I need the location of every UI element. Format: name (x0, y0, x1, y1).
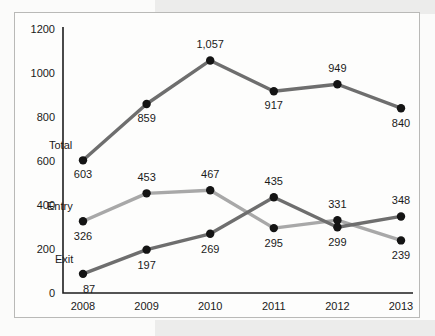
series-line-total (83, 60, 401, 160)
y-axis-tick-label: 600 (37, 155, 55, 167)
data-point-marker (206, 230, 214, 238)
data-point-marker (333, 80, 341, 88)
line-chart-plot: 0200400600800100012002008200920102011201… (15, 13, 419, 317)
data-point-value-label: 603 (74, 168, 92, 180)
y-axis-tick-label: 200 (37, 243, 55, 255)
chart-axes (63, 27, 413, 293)
data-point-marker (270, 224, 278, 232)
x-axis-tick-label: 2010 (198, 300, 222, 312)
data-point-value-label: 239 (392, 249, 410, 261)
chart-frame: 0200400600800100012002008200920102011201… (14, 12, 420, 318)
series-name-label-exit: Exit (55, 253, 73, 265)
data-point-marker (397, 212, 405, 220)
data-point-value-label: 269 (201, 243, 219, 255)
data-point-marker (79, 217, 87, 225)
data-point-value-label: 326 (74, 230, 92, 242)
data-point-value-label: 949 (328, 62, 346, 74)
data-point-value-label: 453 (137, 171, 155, 183)
x-axis-tick-label: 2011 (262, 300, 286, 312)
y-axis-tick-label: 800 (37, 111, 55, 123)
data-point-marker (270, 193, 278, 201)
data-point-value-label: 1,057 (196, 38, 224, 50)
data-point-marker (206, 186, 214, 194)
series-name-label-total: Total (49, 139, 72, 151)
data-point-marker (142, 100, 150, 108)
data-point-value-label: 295 (265, 237, 283, 249)
data-point-marker (270, 87, 278, 95)
data-point-marker (397, 236, 405, 244)
data-point-marker (142, 245, 150, 253)
x-axis-tick-label: 2009 (134, 300, 158, 312)
data-point-value-label: 435 (265, 175, 283, 187)
data-point-value-label: 859 (137, 112, 155, 124)
data-point-value-label: 840 (392, 117, 410, 129)
data-point-value-label: 917 (265, 99, 283, 111)
data-point-value-label: 87 (83, 283, 95, 295)
y-axis-tick-label: 1200 (31, 23, 55, 35)
data-point-value-label: 197 (137, 259, 155, 271)
data-point-value-label: 467 (201, 168, 219, 180)
data-point-value-label: 348 (392, 194, 410, 206)
data-point-marker (333, 223, 341, 231)
data-point-marker (79, 156, 87, 164)
y-axis-tick-label: 1000 (31, 67, 55, 79)
data-point-marker (397, 104, 405, 112)
data-point-value-label: 331 (328, 198, 346, 210)
x-axis-tick-label: 2012 (325, 300, 349, 312)
x-axis-tick-label: 2008 (71, 300, 95, 312)
series-name-label-entry: Entry (47, 200, 73, 212)
data-point-value-label: 299 (328, 236, 346, 248)
y-axis-tick-label: 0 (49, 287, 55, 299)
page-background-band-bottom (155, 320, 435, 336)
data-point-marker (206, 56, 214, 64)
x-axis-tick-label: 2013 (389, 300, 413, 312)
data-point-marker (79, 270, 87, 278)
data-point-marker (142, 189, 150, 197)
